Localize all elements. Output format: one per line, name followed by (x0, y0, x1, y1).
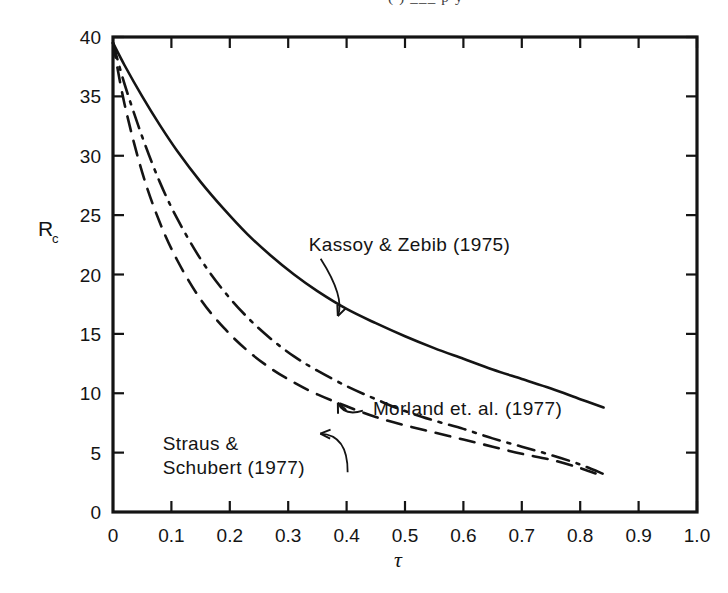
x-tick-label: 0.4 (333, 525, 360, 546)
x-tick-label: 0.6 (450, 525, 476, 546)
x-tick-label: 0.9 (625, 525, 651, 546)
y-axis-tick-labels: 0510152025303540 (80, 27, 101, 523)
y-tick-label: 5 (90, 443, 101, 464)
x-tick-label: 0.3 (275, 525, 301, 546)
y-tick-label: 35 (80, 86, 101, 107)
x-axis-title: τ (394, 547, 403, 572)
x-tick-label: 1.0 (684, 525, 710, 546)
x-tick-label: 0.2 (217, 525, 243, 546)
y-tick-label: 25 (80, 205, 101, 226)
annotation-straus-line2: Schubert (1977) (163, 457, 305, 478)
annotation-straus-line1: Straus & (163, 433, 239, 454)
x-tick-label: 0.1 (158, 525, 184, 546)
y-axis-title: R (38, 217, 53, 240)
x-tick-label: 0.8 (567, 525, 593, 546)
curve-solid (113, 43, 604, 408)
y-tick-label: 20 (80, 265, 101, 286)
y-tick-label: 15 (80, 324, 101, 345)
x-axis-ticks (171, 37, 697, 512)
curve-annotations: Kassoy & Zebib (1975)Morland et. al. (19… (163, 234, 563, 479)
y-tick-label: 0 (90, 502, 101, 523)
x-tick-label: 0.5 (392, 525, 418, 546)
rc-vs-tau-chart: 00.10.20.30.40.50.60.70.80.91.0 05101520… (0, 0, 728, 593)
x-tick-label: 0.7 (509, 525, 535, 546)
x-tick-label: 0 (108, 525, 119, 546)
annotation-kassoy: Kassoy & Zebib (1975) (309, 234, 511, 255)
x-axis-tick-labels: 00.10.20.30.40.50.60.70.80.91.0 (108, 525, 711, 546)
leader-line-straus (320, 434, 347, 473)
y-tick-label: 10 (80, 383, 101, 404)
y-tick-label: 40 (80, 27, 101, 48)
annotation-morland: Morland et. al. (1977) (373, 398, 562, 419)
y-axis-title-subscript: c (52, 231, 59, 246)
y-tick-label: 30 (80, 146, 101, 167)
figure-container: ( ) ___ p y 00.10.20.30.40.50.60.70.80.9… (0, 0, 728, 593)
